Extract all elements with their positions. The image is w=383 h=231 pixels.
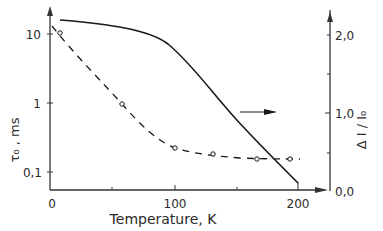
x-tick-100: 100 <box>164 197 187 211</box>
data-point <box>58 31 62 35</box>
y-right-axis-label: Δ I / I₀ <box>354 111 369 150</box>
x-tick-0: 0 <box>48 197 56 211</box>
y-axis-left: 10 1 0,1 τ₀ , ms <box>7 6 53 190</box>
arrow-annotation <box>240 109 277 115</box>
x-tick-200: 200 <box>287 197 310 211</box>
x-axis-label: Temperature, K <box>109 211 218 227</box>
data-point <box>173 146 177 150</box>
y-left-tick-10: 10 <box>26 28 41 42</box>
data-point <box>288 157 292 161</box>
y-left-axis-label: τ₀ , ms <box>7 117 22 162</box>
y-axis-right: 2,0 1,0 0,0 Δ I / I₀ <box>325 10 369 199</box>
chart: 10 1 0,1 τ₀ , ms 0 100 200 Temperature, … <box>0 0 383 231</box>
y-left-tick-0-1: 0,1 <box>23 166 42 180</box>
y-right-tick-2-0: 2,0 <box>335 29 354 43</box>
data-point <box>120 102 124 106</box>
data-point <box>255 157 259 161</box>
y-right-tick-1-0: 1,0 <box>335 107 354 121</box>
data-point <box>211 152 215 156</box>
y-right-tick-0-0: 0,0 <box>335 185 354 199</box>
y-left-tick-1: 1 <box>33 97 41 111</box>
x-axis: 0 100 200 Temperature, K <box>48 182 328 227</box>
series-tau0-curve <box>52 26 300 159</box>
